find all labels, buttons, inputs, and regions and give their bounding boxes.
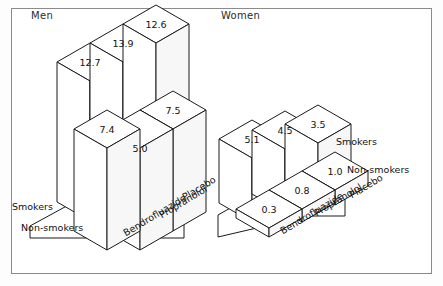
men-value-smokers-bendrofluazide: 12.7	[79, 57, 100, 68]
men-value-nonsmokers-bendrofluazide: 7.4	[99, 124, 114, 135]
women-value-nonsmokers-bendrofluazide: 0.3	[261, 204, 276, 215]
men-value-nonsmokers-placebo: 7.5	[165, 105, 180, 116]
men-value-smokers-placebo: 12.6	[145, 19, 166, 30]
men-value-nonsmokers-propranolol: 5.0	[132, 143, 147, 154]
women-panel-title: Women	[221, 10, 260, 21]
women-row-label-smokers: Smokers	[336, 136, 377, 147]
women-value-smokers-propranolol: 4.5	[277, 125, 292, 136]
men-panel-title: Men	[31, 10, 53, 21]
women-value-smokers-bendrofluazide: 5.1	[244, 134, 259, 145]
women-value-nonsmokers-propranolol: 0.8	[294, 185, 309, 196]
men-value-smokers-propranolol: 13.9	[112, 38, 133, 49]
figure-container: 12.7 13.9 12.6 7.4 5.0 7.5	[0, 0, 443, 286]
men-row-label-non-smokers: Non-smokers	[21, 222, 83, 233]
men-chart: 12.7 13.9 12.6 7.4 5.0 7.5	[30, 5, 206, 250]
women-value-smokers-placebo: 3.5	[310, 119, 325, 130]
men-row-label-smokers: Smokers	[12, 201, 53, 212]
women-value-nonsmokers-placebo: 1.0	[327, 166, 342, 177]
